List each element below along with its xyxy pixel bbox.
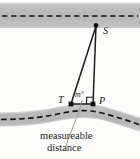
label-T: T <box>58 94 65 105</box>
diagram-canvas: S T P m° measureable distance <box>0 0 140 159</box>
segment-S-to-P <box>93 26 96 104</box>
vertex-dot-T <box>69 102 74 107</box>
vertex-dot-S <box>94 23 99 28</box>
label-P: P <box>98 95 105 106</box>
vertex-dot-P <box>91 102 96 107</box>
top-road <box>0 3 140 28</box>
bottom-curved-road <box>0 104 140 131</box>
label-S: S <box>103 25 108 36</box>
caption-line-1: measureable <box>40 130 93 141</box>
figure-container: S T P m° measureable distance <box>0 0 140 159</box>
caption-line-2: distance <box>47 142 82 153</box>
label-angle-m-degrees: m° <box>75 90 85 99</box>
